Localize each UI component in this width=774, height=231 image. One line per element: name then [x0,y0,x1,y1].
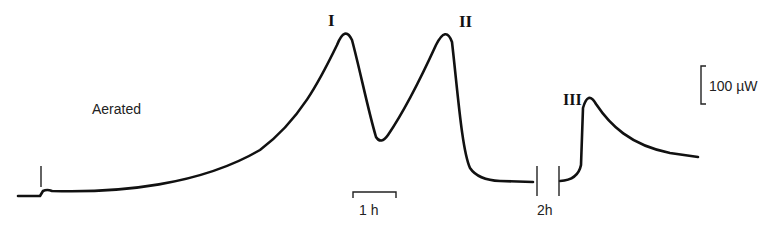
peak-label-2: II [459,12,473,31]
power-scale-bar [701,66,706,104]
time-scale-bar [353,192,396,198]
condition-label: Aerated [92,101,141,117]
peak-label-1: I [328,11,335,30]
peak-label-3: III [563,91,582,108]
power-scale-label: 100 µW [709,78,758,94]
gap-label: 2h [537,202,553,218]
time-scale-label: 1 h [359,202,378,218]
heat-trace-segment-2 [560,98,698,181]
thermogram-chart: Aerated I II III 1 h 100 µW 2h [0,0,774,231]
